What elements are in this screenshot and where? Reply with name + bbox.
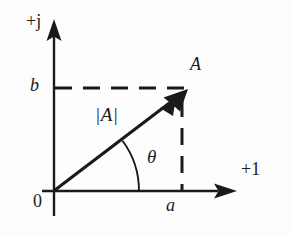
real-component-label: a — [166, 196, 175, 214]
vector-A-arrowhead — [160, 89, 188, 116]
imaginary-component-label: b — [30, 76, 39, 94]
vector-label: A — [190, 55, 201, 73]
imaginary-axis-label: +j — [26, 12, 41, 30]
origin-label: 0 — [33, 192, 42, 210]
angle-label: θ — [147, 147, 156, 166]
phasor-diagram-figure: +j +1 b 0 a A |A| θ — [0, 0, 292, 235]
vector-magnitude-label: |A| — [95, 105, 119, 124]
real-axis-label: +1 — [241, 160, 260, 178]
angle-arc — [123, 141, 140, 191]
vector-A — [55, 89, 188, 190]
diagram-canvas — [0, 0, 292, 235]
